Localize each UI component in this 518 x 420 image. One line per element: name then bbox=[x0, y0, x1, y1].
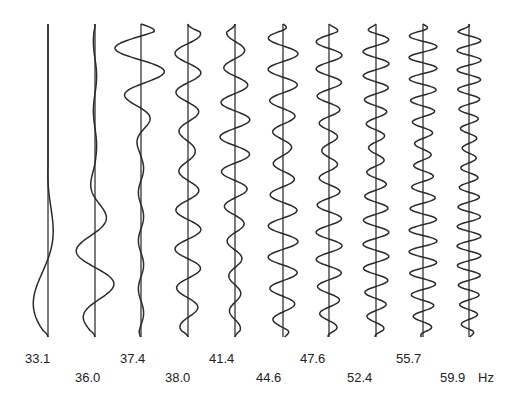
mode-waveform bbox=[115, 24, 164, 337]
mode-waveform bbox=[33, 24, 53, 337]
trace-38-0 bbox=[175, 24, 201, 337]
frequency-label: 47.6 bbox=[300, 351, 325, 366]
frequency-label: 37.4 bbox=[120, 351, 145, 366]
trace-36-0 bbox=[76, 24, 114, 337]
frequency-label: 38.0 bbox=[165, 370, 190, 385]
frequency-label: 52.4 bbox=[347, 370, 372, 385]
trace-59-9 bbox=[457, 24, 481, 337]
frequency-label: 44.6 bbox=[256, 370, 281, 385]
mode-shape-plot bbox=[0, 0, 518, 345]
frequency-label: 59.9 bbox=[440, 370, 465, 385]
frequency-label: 36.0 bbox=[75, 370, 100, 385]
trace-37-4 bbox=[115, 24, 164, 337]
frequency-label: 33.1 bbox=[25, 351, 50, 366]
trace-47-6 bbox=[316, 24, 342, 337]
trace-44-6 bbox=[268, 24, 298, 337]
frequency-label: 41.4 bbox=[209, 351, 234, 366]
trace-41-4 bbox=[220, 24, 250, 337]
trace-55-7 bbox=[409, 24, 437, 337]
trace-33-1 bbox=[33, 24, 53, 337]
trace-52-4 bbox=[363, 24, 389, 337]
frequency-label: 55.7 bbox=[396, 351, 421, 366]
unit-label: Hz bbox=[478, 370, 494, 385]
